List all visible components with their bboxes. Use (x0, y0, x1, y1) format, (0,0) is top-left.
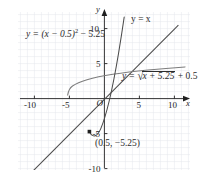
x-tick-pos5: 5 (137, 101, 142, 110)
sqrt-equation-suffix: + 0.5 (175, 71, 197, 81)
parabola-equation-label: y = (x − 0.5)2 − 5.25 (26, 30, 105, 40)
sqrt-equation-prefix: y = (122, 71, 137, 81)
identity-equation-label: y = x (131, 15, 151, 25)
origin-label: O (97, 99, 104, 108)
x-tick-neg10: -10 (24, 101, 36, 110)
y-tick-neg10: -10 (89, 165, 101, 174)
vertex-point-label: (0.5, −5.25) (95, 139, 140, 149)
x-axis-label: x (186, 99, 190, 108)
y-tick-pos5: 5 (96, 60, 101, 69)
parabola-equation-tail: − 5.25 (78, 29, 105, 39)
vertex-marker (88, 130, 92, 134)
sqrt-equation-label: y = √x + 5.25 + 0.5 (122, 70, 197, 82)
sqrt-radicand: x + 5.25 (142, 71, 175, 82)
parabola-equation-text: y = (x − 0.5) (26, 29, 75, 39)
coordinate-plane (0, 0, 219, 184)
x-tick-pos10: 10 (168, 101, 177, 110)
x-tick-neg5: -5 (62, 101, 70, 110)
graph-figure: y x O -10 -5 5 10 10 5 -5 -10 y = (x − 0… (0, 0, 219, 184)
y-axis-label: y (96, 5, 100, 14)
